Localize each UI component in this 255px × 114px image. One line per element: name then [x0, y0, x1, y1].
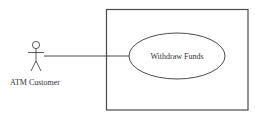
- actor-left-leg: [31, 61, 36, 71]
- actor-right-leg: [36, 61, 41, 71]
- actor-stick-figure-icon: [28, 41, 44, 71]
- actor-head: [32, 41, 39, 48]
- actor-label: ATM Customer: [10, 78, 60, 87]
- use-case-diagram: ATM Customer Withdraw Funds: [0, 0, 255, 114]
- use-case-label: Withdraw Funds: [150, 52, 203, 61]
